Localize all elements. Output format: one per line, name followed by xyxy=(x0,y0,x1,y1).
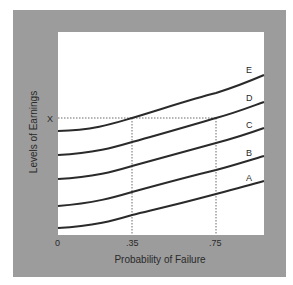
y-level-label-x: X xyxy=(47,114,53,124)
curve-label-c: C xyxy=(246,120,253,130)
curve-label-e: E xyxy=(246,65,252,75)
x-tick-035: .35 xyxy=(126,238,139,248)
curve-c xyxy=(58,128,264,179)
x-tick-0: 0 xyxy=(55,238,60,248)
curve-b xyxy=(58,156,264,206)
y-axis-title: Levels of Earnings xyxy=(28,91,39,173)
curve-label-a: A xyxy=(246,173,252,183)
curve-e xyxy=(58,75,264,131)
x-tick-075: .75 xyxy=(209,238,222,248)
x-axis-title: Probability of Failure xyxy=(114,254,206,265)
curve-a xyxy=(58,181,264,228)
curve-label-b: B xyxy=(246,148,252,158)
earnings-failure-chart: E D C B A X 0 .35 .75 Probability of Fai… xyxy=(0,0,293,285)
curve-label-d: D xyxy=(246,93,253,103)
